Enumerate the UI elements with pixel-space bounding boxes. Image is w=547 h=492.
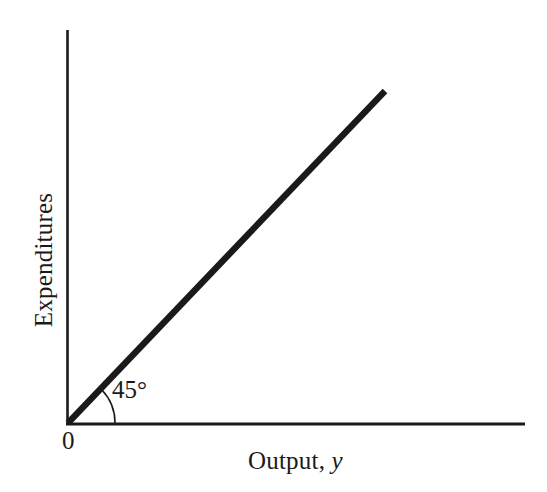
x-axis-label-text: Output, [248, 447, 325, 474]
x-axis-label: Output, y [248, 448, 343, 473]
forty-five-degree-line [68, 91, 385, 423]
y-axis-label: Expenditures [31, 160, 56, 360]
origin-label: 0 [62, 428, 75, 453]
angle-label: 45° [112, 377, 147, 402]
x-axis-label-variable: y [332, 447, 343, 474]
expenditure-output-figure: Expenditures Output, y 45° 0 [0, 0, 547, 492]
plot-area [0, 0, 547, 492]
